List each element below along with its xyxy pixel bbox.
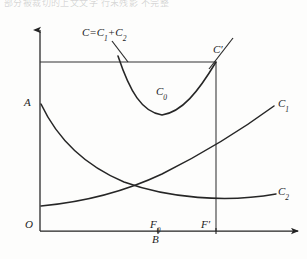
label-origin: O [25,219,33,230]
label-total-cost-sub2: 2 [123,34,127,43]
label-x-axis-variable: B [152,234,159,245]
label-total-cost-lhs: C=C [82,26,104,38]
label-a-intercept: A [24,97,31,108]
label-c2: C2 [278,186,289,197]
label-total-cost-sub1: 1 [104,34,108,43]
figure-root: 部分被裁切的上文文字 行末残影 不完整 [0,0,307,259]
label-c-prime: C′ [213,44,223,55]
label-f-prime: F′ [201,219,210,230]
label-c2-sub: 2 [285,193,289,202]
label-c1-sub: 1 [285,105,289,114]
label-f0: F0 [150,219,160,230]
label-total-cost-plus: +C [108,26,123,38]
leader-line-total-cost [112,41,128,62]
label-c0: C0 [156,86,167,97]
label-c1: C1 [278,98,289,109]
label-c0-sub: 0 [163,93,167,102]
label-f0-base: F [150,218,157,230]
label-total-cost-equation: C=C1+C2 [82,27,126,38]
curve-c2-decreasing [41,104,276,198]
